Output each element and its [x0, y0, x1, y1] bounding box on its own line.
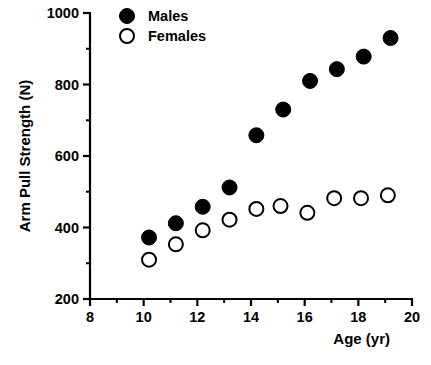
legend-marker-males-icon	[120, 9, 135, 24]
data-point-female	[354, 191, 368, 205]
y-axis-title: Arm Pull Strength (N)	[16, 80, 33, 233]
data-point-male	[195, 199, 210, 214]
x-tick-label: 10	[136, 309, 152, 325]
y-tick-label: 1000	[47, 5, 79, 21]
y-tick-label: 800	[55, 77, 79, 93]
x-tick-label: 12	[189, 309, 205, 325]
data-point-male	[329, 62, 344, 77]
data-point-female	[327, 191, 341, 205]
data-point-male	[249, 128, 264, 143]
data-point-female	[223, 213, 237, 227]
data-point-male	[356, 49, 371, 64]
scatter-chart-figure: 2004006008001000 8101214161820 Males Fem…	[0, 0, 431, 365]
legend-marker-females-icon	[120, 29, 134, 43]
series-males-points	[142, 31, 399, 245]
data-point-male	[383, 31, 398, 46]
data-point-male	[303, 73, 318, 88]
y-tick-label: 400	[55, 220, 79, 236]
data-point-female	[169, 237, 183, 251]
data-point-female	[381, 188, 395, 202]
x-tick-label: 16	[297, 309, 313, 325]
y-tick-label: 600	[55, 148, 79, 164]
x-axis-tick-labels: 8101214161820	[86, 309, 420, 325]
x-tick-label: 8	[86, 309, 94, 325]
data-point-male	[142, 230, 157, 245]
y-tick-label: 200	[55, 291, 79, 307]
data-point-female	[249, 202, 263, 216]
legend-label-females: Females	[148, 28, 206, 44]
x-tick-label: 20	[404, 309, 420, 325]
x-tick-label: 18	[350, 309, 366, 325]
data-point-female	[142, 253, 156, 267]
data-point-male	[168, 216, 183, 231]
data-point-male	[222, 180, 237, 195]
legend-label-males: Males	[148, 8, 188, 24]
data-point-female	[196, 223, 210, 237]
chart-canvas: 2004006008001000 8101214161820 Males Fem…	[0, 0, 431, 365]
x-axis-title: Age (yr)	[333, 330, 390, 347]
data-point-female	[300, 206, 314, 220]
legend: Males Females	[120, 8, 207, 44]
x-tick-label: 14	[243, 309, 259, 325]
y-axis-tick-labels: 2004006008001000	[47, 5, 79, 307]
data-point-male	[276, 102, 291, 117]
data-point-female	[274, 199, 288, 213]
